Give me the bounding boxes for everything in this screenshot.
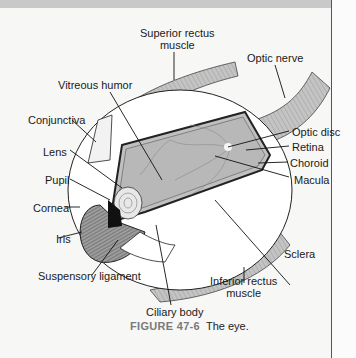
label-text: Inferior rectus [210,275,277,287]
label-inferior-rectus-muscle: Inferior rectus muscle [210,275,277,299]
label-cornea: Cornea [33,202,69,214]
label-retina: Retina [292,141,324,153]
label-optic-disc: Optic disc [292,126,340,138]
label-suspensory-ligament: Suspensory ligament [38,270,141,282]
label-superior-rectus-muscle: Superior rectus muscle [140,27,215,51]
label-optic-nerve: Optic nerve [247,52,303,64]
label-text: muscle [210,287,277,299]
label-macula: Macula [294,174,329,186]
label-iris: Iris [56,233,71,245]
caption-text: The eye. [206,320,249,332]
label-ciliary-body: Ciliary body [146,306,203,318]
label-vitreous-humor: Vitreous humor [58,79,132,91]
label-conjunctiva: Conjunctiva [28,114,85,126]
label-sclera: Sclera [284,248,315,260]
label-lens: Lens [43,146,67,158]
label-pupil: Pupil [45,174,69,186]
figure-number: FIGURE 47-6 [130,320,200,332]
figure-caption: FIGURE 47-6The eye. [130,320,249,332]
label-text: muscle [140,39,215,51]
label-text: Superior rectus [140,27,215,39]
label-choroid: Choroid [290,157,329,169]
